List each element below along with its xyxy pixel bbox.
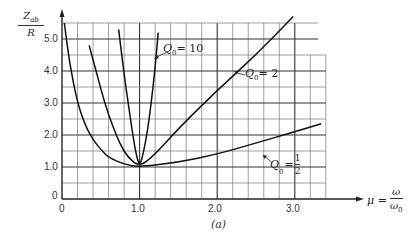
y-tick-5: 5.0 — [44, 33, 58, 44]
x-tick-3: 3.0 — [286, 203, 300, 214]
y-axis-label-sub: ab — [30, 16, 39, 24]
y-tick-2: 2.0 — [44, 129, 58, 140]
x-axis-arrow-icon — [356, 197, 364, 202]
curve-label-q2-value: = 2 — [259, 67, 279, 80]
curve-label-qhalf-den: 2 — [295, 166, 301, 176]
curve-label-q2: Q0= 2 — [245, 67, 278, 82]
x-axis-label: μ = ω ω0 — [367, 186, 403, 214]
curve-label-qhalf-q: Q — [270, 158, 279, 171]
y-axis-label-den: R — [27, 27, 35, 38]
x-tick-0: 0 — [59, 203, 65, 214]
curve-label-q10-q: Q — [163, 42, 172, 55]
x-tick-2: 2.0 — [208, 203, 222, 214]
curve-label-q10: Q0= 10 — [163, 42, 203, 57]
y-tick-0: 0 — [52, 190, 58, 201]
x-axis-label-num: ω — [392, 186, 400, 197]
y-axis-arrow-icon — [60, 9, 65, 17]
curve-label-qhalf-sub: 0 — [279, 168, 283, 176]
curve-label-qhalf: Q0= 1 2 — [270, 153, 300, 176]
y-tick-4: 4.0 — [44, 65, 58, 76]
y-axis-label: Zab R — [18, 10, 44, 38]
y-tick-3: 3.0 — [44, 97, 58, 108]
curve-label-q2-q: Q — [245, 67, 254, 80]
curve-label-q10-value: = 10 — [177, 42, 204, 55]
curve-label-qhalf-eq: = — [285, 158, 294, 171]
x-axis-label-den-sub: 0 — [398, 206, 402, 214]
y-tick-1: 1.0 — [44, 161, 58, 172]
figure-caption: (a) — [211, 218, 226, 231]
curve-q0-10 — [119, 29, 159, 163]
curve-label-qhalf-num: 1 — [295, 153, 301, 163]
impedance-chart — [0, 0, 413, 235]
x-axis-label-den: ω — [390, 200, 398, 211]
x-tick-1: 1.0 — [131, 203, 145, 214]
x-axis-label-mu: μ = — [367, 194, 387, 207]
